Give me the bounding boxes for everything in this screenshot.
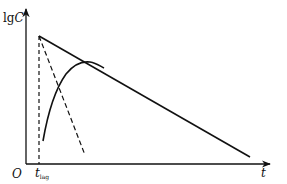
absorption-residual-line <box>39 36 85 155</box>
origin-label: O <box>12 168 22 180</box>
elimination-line <box>39 36 250 157</box>
y-axis-label: lgC <box>3 12 24 24</box>
lag-time-label: tlag <box>35 167 49 180</box>
concentration-curve <box>43 62 104 141</box>
x-axis-label: t <box>261 167 266 179</box>
pharmacokinetic-diagram <box>0 0 287 184</box>
